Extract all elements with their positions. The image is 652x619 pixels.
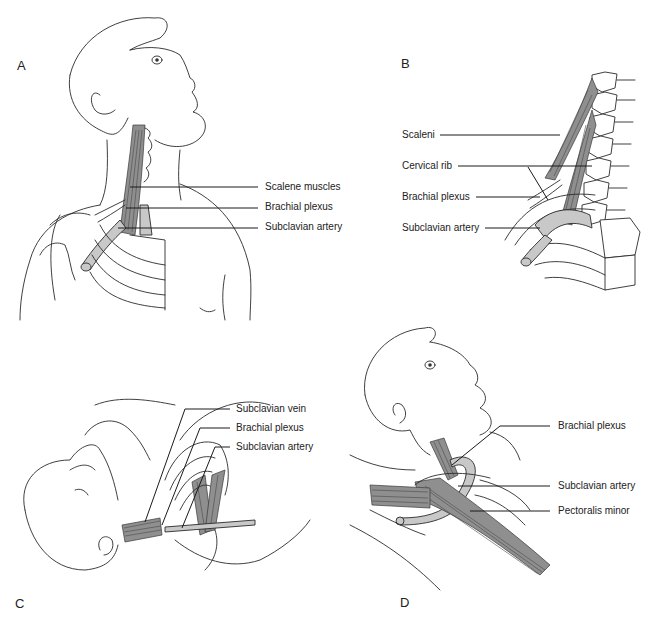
label-subclavian-artery: Subclavian artery [402, 222, 479, 233]
panel-c: C Subclavian vein Brachial plexus Subcla… [0, 370, 330, 619]
illustration-reclined-body [330, 320, 652, 619]
panel-d: D Brachial plexus Subclavian artery [330, 320, 652, 619]
illustration-upright-neck [0, 0, 330, 320]
leader-line [528, 167, 548, 200]
label-subclavian-artery: Subclavian artery [558, 480, 635, 491]
label-brachial-plexus: Brachial plexus [236, 422, 304, 433]
illustration-cervical-spine [330, 0, 652, 320]
label-pectoralis-minor: Pectoralis minor [558, 505, 630, 516]
panel-a: A [0, 0, 330, 320]
label-subclavian-vein: Subclavian vein [236, 403, 306, 414]
label-cervical-rib: Cervical rib [402, 160, 452, 171]
panel-b: B Scaleni Cervical rib Brach [330, 0, 652, 320]
label-brachial-plexus: Brachial plexus [265, 201, 333, 212]
label-brachial-plexus: Brachial plexus [558, 420, 626, 431]
label-brachial-plexus: Brachial plexus [402, 191, 470, 202]
label-subclavian-artery: Subclavian artery [236, 441, 313, 452]
label-scaleni: Scaleni [402, 129, 435, 140]
